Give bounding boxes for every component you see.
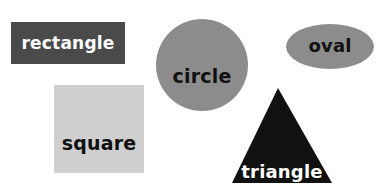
shape-oval-label: oval <box>308 37 351 55</box>
shape-rectangle[interactable]: rectangle <box>11 22 125 64</box>
shape-square[interactable]: square <box>54 85 144 173</box>
shapes-canvas: rectangle circle oval square triangle <box>0 0 390 188</box>
shape-triangle-label: triangle <box>232 163 332 181</box>
shape-square-label: square <box>62 134 137 153</box>
shape-circle-label: circle <box>172 67 231 86</box>
shape-oval[interactable]: oval <box>286 24 374 69</box>
shape-triangle[interactable]: triangle <box>232 88 332 183</box>
shape-rectangle-label: rectangle <box>21 35 114 52</box>
